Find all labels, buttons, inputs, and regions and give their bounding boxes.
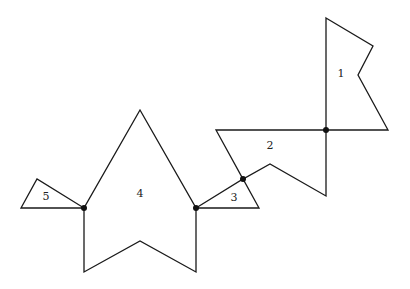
polygon-label-3: 3: [231, 191, 238, 204]
polygon-label-4: 4: [137, 187, 144, 200]
polygon-label-5: 5: [43, 190, 50, 203]
junction-dot-3-4: [193, 205, 199, 211]
polygon-1: [326, 18, 388, 130]
polygon-5: [21, 179, 84, 208]
junction-dot-4-5: [81, 205, 87, 211]
junction-dots: [81, 127, 329, 211]
polygon-labels: 1 2 3 4 5: [43, 67, 345, 204]
polygon-3: [196, 179, 259, 208]
polygon-label-1: 1: [338, 67, 345, 80]
junction-dot-1-2: [323, 127, 329, 133]
polygon-label-2: 2: [267, 139, 274, 152]
polygons: [21, 18, 388, 272]
junction-dot-2-3: [240, 176, 246, 182]
polygon-chain-diagram: 1 2 3 4 5: [0, 0, 410, 289]
